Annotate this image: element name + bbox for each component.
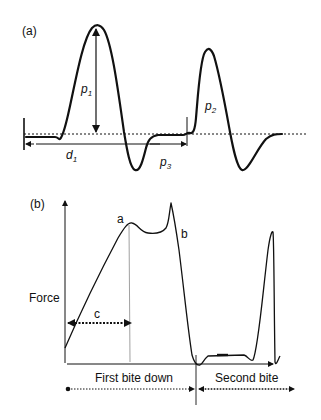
panel-a-label: (a) xyxy=(22,24,37,38)
span-c-label: c xyxy=(94,307,100,321)
point-b-label: b xyxy=(181,227,188,241)
p3-label: p3 xyxy=(159,155,172,171)
panel-b: (b) Force c a b First bite down Second b… xyxy=(29,197,294,405)
phase-first-bite-label: First bite down xyxy=(95,371,173,385)
point-a-label: a xyxy=(117,212,124,226)
panel-a: (a) p1 p2 p3 d1 xyxy=(22,24,306,171)
phase-second-bite-label: Second bite xyxy=(215,371,279,385)
point-a-guide xyxy=(129,225,130,362)
panel-b-label: (b) xyxy=(30,197,45,211)
force-curve xyxy=(65,203,280,365)
p2-label: p2 xyxy=(204,99,217,115)
diagram-canvas: (a) p1 p2 p3 d1 (b) Force c xyxy=(0,0,321,420)
signal-waveform xyxy=(26,25,282,170)
p1-label: p1 xyxy=(80,82,92,98)
force-axis-label: Force xyxy=(29,291,60,305)
d1-label: d1 xyxy=(66,148,77,164)
